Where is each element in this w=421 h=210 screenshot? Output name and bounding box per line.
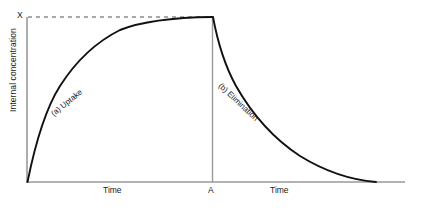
pharmacokinetic-curve-chart: Internal concentration X A Time Time (a)… — [0, 0, 421, 210]
x-axis-label-elimination-phase: Time — [270, 186, 289, 195]
y-axis-title: Internal concentration — [9, 28, 18, 112]
y-axis-tick-label-x: X — [17, 11, 23, 20]
x-axis-tick-label-a: A — [208, 186, 214, 195]
uptake-curve — [28, 17, 213, 182]
x-axis-label-uptake-phase: Time — [103, 186, 122, 195]
